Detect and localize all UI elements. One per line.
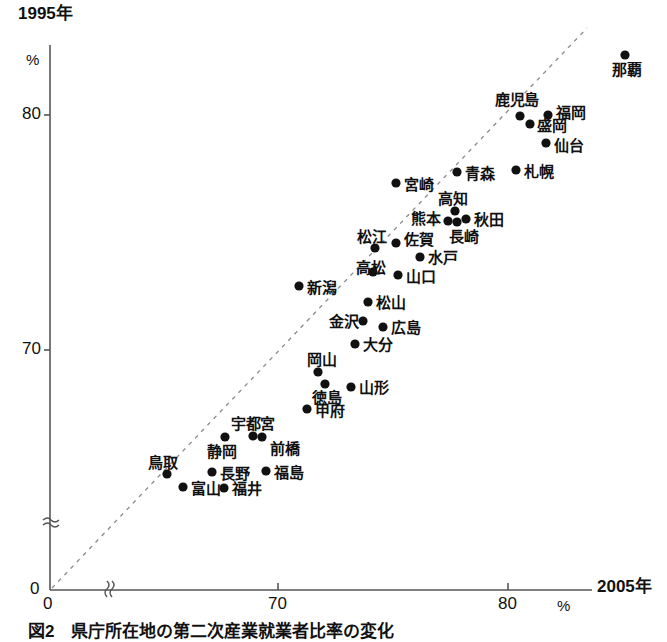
data-point [294, 281, 303, 290]
data-point [452, 217, 461, 226]
data-point-label: 鳥取 [148, 455, 177, 470]
data-point-label: 熊本 [411, 211, 440, 226]
data-point [450, 206, 459, 215]
data-point [248, 431, 257, 440]
data-point [302, 404, 311, 413]
data-point [620, 50, 629, 59]
data-point-label: 岡山 [307, 352, 336, 367]
data-point-label: 佐賀 [404, 232, 433, 247]
data-point-label: 高知 [438, 191, 467, 206]
x-axis-unit: % [557, 598, 570, 613]
data-point [391, 178, 400, 187]
data-point-label: 富山 [191, 481, 220, 496]
data-point-label: 仙台 [554, 138, 583, 153]
data-point [461, 214, 470, 223]
data-point-label: 広島 [391, 320, 420, 335]
data-point [257, 432, 266, 441]
data-point [261, 466, 270, 475]
data-point-label: 山口 [406, 269, 435, 284]
x-tick-label-80: 80 [498, 595, 517, 612]
reference-line-y-equals-x [52, 28, 587, 588]
data-point [541, 138, 550, 147]
data-point-label: 宮崎 [404, 177, 433, 192]
data-point-label: 金沢 [329, 314, 358, 329]
y-tick-label-80: 80 [22, 105, 41, 122]
data-point [350, 339, 359, 348]
data-point [443, 216, 452, 225]
data-point-label: 札幌 [524, 164, 553, 179]
data-point [220, 432, 229, 441]
data-point [313, 367, 322, 376]
data-point-label: 長野 [220, 466, 249, 481]
data-point-label: 甲府 [315, 403, 344, 418]
data-point [363, 297, 372, 306]
y-axis-break-icon [43, 518, 59, 527]
data-point [207, 467, 216, 476]
data-point-label: 松山 [376, 295, 405, 310]
data-point-label: 福井 [232, 481, 261, 496]
data-point-label: 前橋 [270, 441, 299, 456]
data-point-label: 松江 [357, 229, 386, 244]
y-origin-label: 0 [30, 580, 39, 597]
y-tick-label-70: 70 [22, 340, 41, 357]
data-point-label: 宇都宮 [231, 416, 275, 431]
data-point [393, 270, 402, 279]
data-point [358, 316, 367, 325]
data-point-label: 大分 [363, 337, 392, 352]
y-axis-title: 1995年 [18, 5, 73, 22]
data-point [391, 238, 400, 247]
x-origin-label: 0 [43, 595, 52, 612]
data-point [320, 379, 329, 388]
x-axis-title: 2005年 [597, 578, 652, 595]
data-point [525, 119, 534, 128]
data-point [378, 322, 387, 331]
data-point [415, 252, 424, 261]
data-point-label: 盛岡 [537, 118, 566, 133]
data-point-label: 高松 [356, 260, 385, 275]
data-point-label: 那覇 [612, 62, 641, 77]
data-point-label: 秋田 [474, 212, 503, 227]
data-point-label: 福島 [274, 465, 303, 480]
data-point-label: 水戸 [428, 250, 457, 265]
data-point [511, 165, 520, 174]
data-point-label: 青森 [465, 166, 494, 181]
data-point [219, 483, 228, 492]
data-point-label: 長崎 [449, 229, 478, 244]
data-point-label: 山形 [359, 380, 388, 395]
data-point-label: 新潟 [307, 280, 336, 295]
x-axis-break-icon [105, 581, 114, 597]
data-point [346, 382, 355, 391]
data-point [515, 111, 524, 120]
x-tick-label-70: 70 [268, 595, 287, 612]
y-axis-unit: % [26, 52, 39, 67]
data-point [452, 167, 461, 176]
data-point-label: 鹿児島 [495, 92, 539, 107]
figure-caption: 図2 県庁所在地の第二次産業就業者比率の変化 [28, 617, 394, 642]
data-point [178, 482, 187, 491]
data-point-label: 静岡 [207, 444, 236, 459]
